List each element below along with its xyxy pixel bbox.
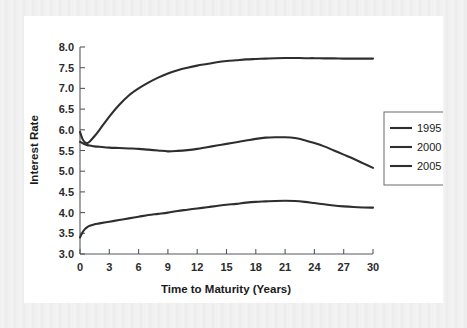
x-tick-label: 12 bbox=[191, 261, 203, 273]
y-tick-label: 5.0 bbox=[59, 165, 74, 177]
x-tick-label: 3 bbox=[106, 261, 112, 273]
x-tick-label: 6 bbox=[136, 261, 142, 273]
x-tick-label: 15 bbox=[220, 261, 232, 273]
chart-canvas: 3.03.54.04.55.05.56.06.57.07.58.0 036912… bbox=[24, 16, 443, 303]
chart-legend: 199520002005 bbox=[384, 112, 443, 185]
legend-label-1995[interactable]: 1995 bbox=[417, 122, 441, 134]
y-tick-label: 6.0 bbox=[59, 124, 74, 136]
x-tick-label: 9 bbox=[165, 261, 171, 273]
legend-label-2000[interactable]: 2000 bbox=[417, 141, 441, 153]
x-tick-label: 18 bbox=[250, 261, 262, 273]
x-tick-label: 27 bbox=[338, 261, 350, 273]
y-tick-label: 7.0 bbox=[59, 82, 74, 94]
y-tick-label: 8.0 bbox=[59, 41, 74, 53]
series-group bbox=[80, 58, 373, 237]
y-tick-label: 3.5 bbox=[59, 227, 74, 239]
y-tick-label: 3.0 bbox=[59, 248, 74, 260]
y-tick-label: 7.5 bbox=[59, 62, 74, 74]
x-tick-group: 036912151821242730 bbox=[77, 249, 379, 273]
x-tick-label: 24 bbox=[308, 261, 321, 273]
series-line-1995 bbox=[80, 58, 373, 143]
legend-label-2005[interactable]: 2005 bbox=[417, 160, 441, 172]
interest-rate-line-chart: 3.03.54.04.55.05.56.06.57.07.58.0 036912… bbox=[24, 16, 443, 303]
series-line-2000 bbox=[80, 137, 373, 168]
x-tick-label: 30 bbox=[367, 261, 379, 273]
y-tick-label: 5.5 bbox=[59, 145, 74, 157]
x-axis-title: Time to Maturity (Years) bbox=[161, 283, 291, 295]
figure-root: 3.03.54.04.55.05.56.06.57.07.58.0 036912… bbox=[0, 0, 467, 328]
y-tick-label: 4.0 bbox=[59, 207, 74, 219]
y-axis-title: Interest Rate bbox=[28, 115, 40, 185]
x-tick-label: 0 bbox=[77, 261, 83, 273]
x-tick-label: 21 bbox=[279, 261, 291, 273]
series-line-2005 bbox=[80, 201, 373, 238]
y-tick-label: 4.5 bbox=[59, 186, 74, 198]
y-tick-label: 6.5 bbox=[59, 103, 74, 115]
y-tick-group: 3.03.54.04.55.05.56.06.57.07.58.0 bbox=[59, 41, 85, 260]
